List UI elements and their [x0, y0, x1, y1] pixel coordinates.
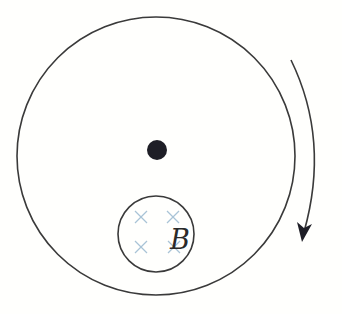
center-axis-dot — [147, 140, 167, 160]
arrowhead-icon — [297, 222, 312, 242]
cross-icon — [135, 241, 147, 253]
magnetic-field-region: B — [118, 196, 194, 272]
cross-icon — [135, 211, 147, 223]
cross-icon — [167, 211, 179, 223]
diagram-svg: B — [0, 0, 342, 314]
field-label-b: B — [169, 224, 190, 255]
diagram-canvas: B — [0, 0, 342, 314]
